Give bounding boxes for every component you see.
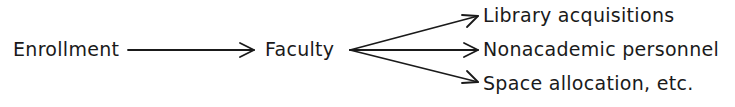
flow-diagram: Enrollment Faculty Library acquisitions …: [0, 0, 735, 107]
arrow-faculty-to-space: [350, 50, 478, 83]
node-space-allocation: Space allocation, etc.: [483, 72, 694, 94]
node-faculty: Faculty: [265, 38, 334, 60]
arrow-enrollment-to-faculty: [128, 43, 254, 57]
node-enrollment: Enrollment: [13, 38, 119, 60]
node-library-acquisitions: Library acquisitions: [483, 4, 674, 26]
node-nonacademic-personnel: Nonacademic personnel: [483, 38, 719, 60]
arrow-faculty-to-library: [350, 15, 478, 50]
